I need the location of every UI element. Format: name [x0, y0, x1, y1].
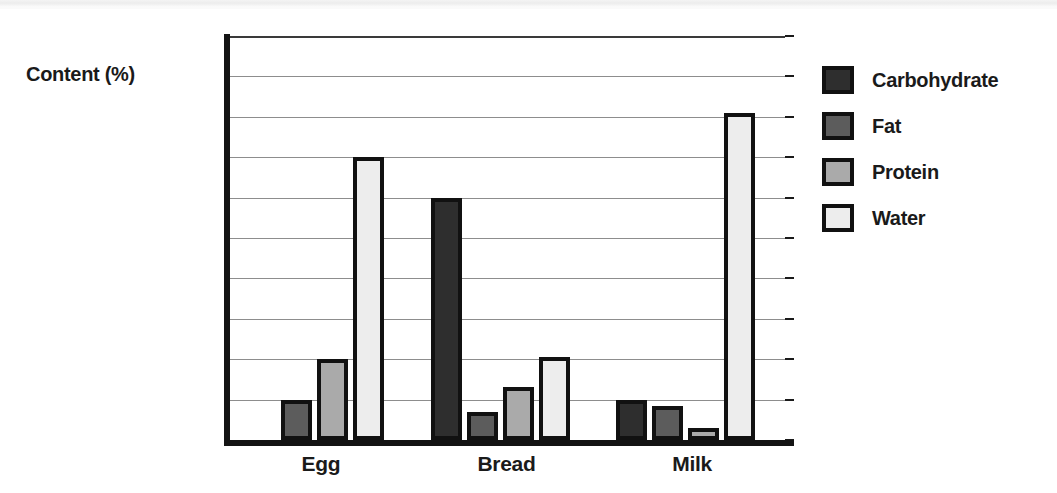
y-axis-line: [224, 34, 230, 442]
y-tick-mark-70: [785, 156, 794, 158]
bar-egg-protein: [317, 359, 348, 440]
legend-item-fat: Fat: [822, 103, 1037, 149]
x-axis-label-milk: Milk: [599, 452, 785, 476]
x-axis-category-labels: EggBreadMilk: [228, 452, 785, 486]
y-tick-mark-60: [785, 197, 794, 199]
y-tick-mark-50: [785, 237, 794, 239]
legend-item-carbohydrate: Carbohydrate: [822, 57, 1037, 103]
y-axis-title: Content (%): [26, 63, 206, 86]
legend-swatch-carbohydrate: [822, 66, 854, 94]
bar-chart-figure: Content (%) 1009080706050403020100 EggBr…: [0, 0, 1057, 493]
bar-milk-fat: [652, 406, 683, 440]
plot-area-wrapper: [228, 36, 785, 440]
y-tick-mark-20: [785, 358, 794, 360]
scan-artifact-band-secondary: [0, 7, 1057, 9]
bar-bread-carbohydrate: [431, 198, 462, 440]
legend-label-carbohydrate: Carbohydrate: [872, 69, 998, 92]
bars-layer: [228, 36, 785, 440]
y-tick-mark-10: [785, 399, 794, 401]
scan-artifact-band: [0, 0, 1057, 7]
y-tick-mark-90: [785, 75, 794, 77]
y-tick-mark-40: [785, 277, 794, 279]
bar-milk-water: [724, 113, 755, 440]
legend-label-protein: Protein: [872, 161, 939, 184]
y-tick-mark-80: [785, 116, 794, 118]
bar-bread-water: [539, 357, 570, 440]
bar-bread-protein: [503, 387, 534, 440]
legend-swatch-protein: [822, 158, 854, 186]
bar-egg-water: [353, 157, 384, 440]
legend-item-protein: Protein: [822, 149, 1037, 195]
bar-milk-carbohydrate: [616, 400, 647, 440]
y-tick-mark-100: [785, 35, 794, 37]
legend-swatch-water: [822, 204, 854, 232]
x-axis-label-bread: Bread: [414, 452, 600, 476]
x-axis-line: [224, 440, 794, 446]
legend: CarbohydrateFatProteinWater: [822, 57, 1037, 241]
plot-area: [228, 36, 785, 440]
legend-item-water: Water: [822, 195, 1037, 241]
x-axis-label-egg: Egg: [228, 452, 414, 476]
y-tick-mark-30: [785, 318, 794, 320]
legend-swatch-fat: [822, 112, 854, 140]
bar-bread-fat: [467, 412, 498, 440]
legend-label-water: Water: [872, 207, 925, 230]
legend-label-fat: Fat: [872, 115, 901, 138]
bar-milk-protein: [688, 428, 719, 440]
bar-egg-fat: [281, 400, 312, 440]
